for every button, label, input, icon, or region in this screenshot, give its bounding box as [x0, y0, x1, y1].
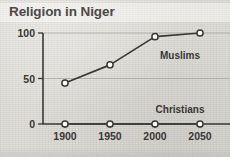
series-label-christians: Christians: [156, 104, 205, 115]
data-point-marker: [107, 62, 113, 68]
y-axis-tick-label: 100: [17, 27, 35, 39]
x-axis-tick-label: 1950: [98, 130, 121, 142]
data-point-marker: [62, 80, 68, 86]
data-point-marker: [197, 121, 203, 127]
x-axis-tick-label: 1900: [53, 130, 76, 142]
chart-figure: Religion in Niger 0501001900195020002050…: [0, 0, 230, 157]
series-label-muslims: Muslims: [160, 50, 200, 61]
data-point-marker: [197, 30, 203, 36]
y-axis-tick-label: 0: [29, 118, 35, 130]
x-axis-tick-label: 2000: [143, 130, 166, 142]
data-point-marker: [152, 34, 158, 40]
data-point-marker: [107, 121, 113, 127]
data-point-marker: [152, 121, 158, 127]
data-point-marker: [62, 121, 68, 127]
y-axis-tick-label: 50: [23, 73, 35, 85]
x-axis-tick-label: 2050: [188, 130, 211, 142]
